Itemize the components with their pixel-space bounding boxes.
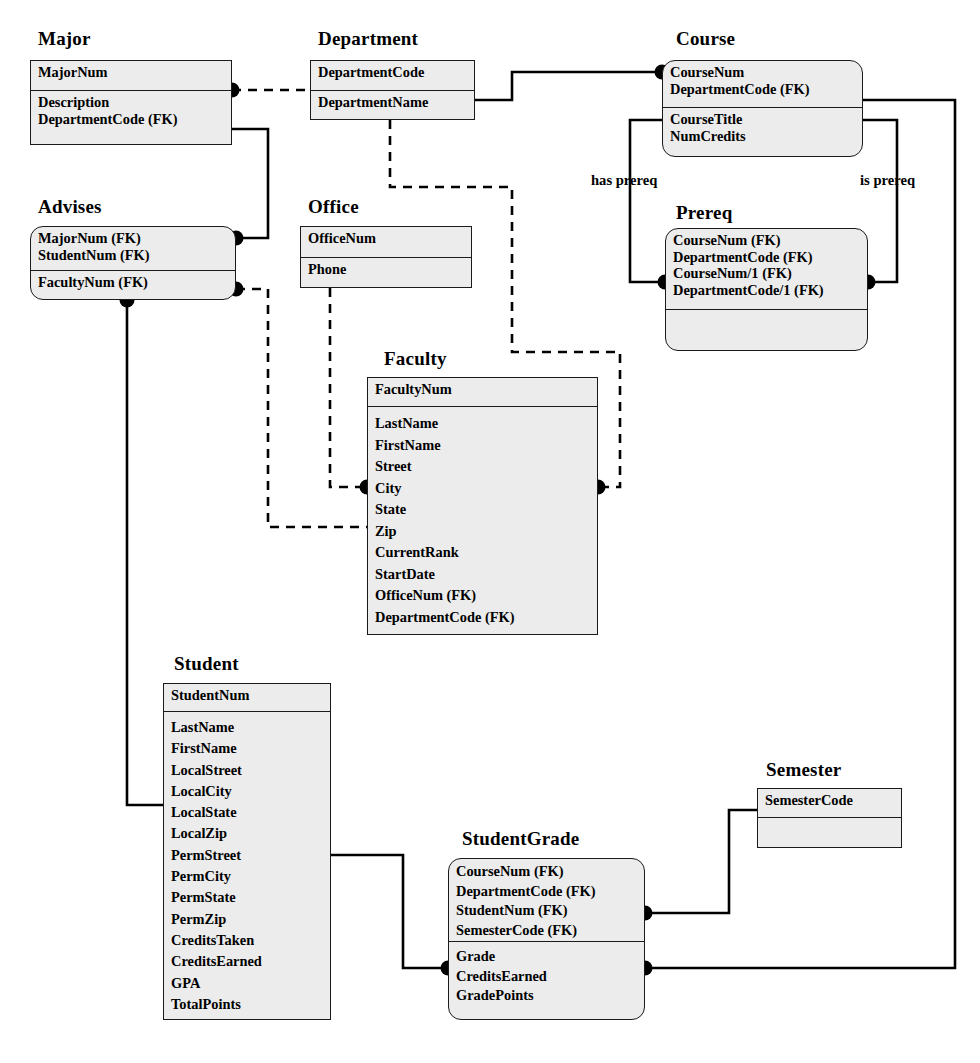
attribute: CourseNum (FK) (456, 862, 644, 882)
attribute: NumCredits (670, 128, 862, 145)
entity-title-semester: Semester (766, 759, 841, 781)
attribute: CurrentRank (375, 542, 597, 564)
attribute: GradePoints (456, 986, 644, 1006)
entity-title-student: Student (174, 653, 239, 675)
attribute: CourseTitle (670, 111, 862, 128)
line-advises-faculty (236, 289, 367, 527)
entity-faculty-keys: FacultyNum (368, 378, 597, 407)
entity-semester-keys: SemesterCode (758, 789, 901, 818)
entity-department-keys: DepartmentCode (311, 61, 474, 91)
entity-semester[interactable]: SemesterCode (757, 788, 902, 848)
line-major-advises (232, 129, 268, 238)
entity-major-keys: MajorNum (31, 61, 231, 91)
line-department-course (475, 72, 662, 100)
attribute: GPA (171, 973, 330, 994)
attribute: StudentNum (171, 687, 330, 704)
entity-faculty[interactable]: FacultyNum LastName FirstName Street Cit… (367, 377, 598, 635)
entity-prereq-attrs (666, 310, 867, 316)
entity-office-attrs: Phone (301, 258, 471, 281)
attribute: StartDate (375, 564, 597, 586)
entity-title-office: Office (308, 196, 359, 218)
attribute: Zip (375, 521, 597, 543)
attribute: DepartmentCode (318, 64, 474, 81)
entity-title-studentgrade: StudentGrade (462, 828, 579, 850)
line-advises-student (127, 300, 163, 805)
attribute: Description (38, 94, 231, 111)
entity-department-attrs: DepartmentName (311, 91, 474, 114)
attribute: State (375, 499, 597, 521)
er-diagram-canvas: Major MajorNum Description DepartmentCod… (0, 0, 980, 1063)
entity-student-keys: StudentNum (164, 684, 330, 712)
attribute: Street (375, 456, 597, 478)
attribute: CreditsEarned (456, 967, 644, 987)
attribute: FirstName (375, 435, 597, 457)
attribute: LastName (375, 413, 597, 435)
attribute: PermStreet (171, 845, 330, 866)
attribute: CourseNum (FK) (673, 232, 867, 249)
attribute: DepartmentCode (FK) (375, 607, 597, 629)
entity-course-attrs: CourseTitle NumCredits (663, 108, 862, 147)
attribute: LocalCity (171, 781, 330, 802)
attribute: FacultyNum (FK) (38, 274, 235, 291)
attribute: DepartmentCode (FK) (670, 81, 862, 98)
attribute: LocalZip (171, 823, 330, 844)
attribute: DepartmentCode/1 (FK) (673, 282, 867, 299)
line-course-is-prereq (863, 120, 897, 282)
attribute: MajorNum (FK) (38, 230, 235, 247)
attribute: DepartmentName (318, 94, 474, 111)
attribute: Grade (456, 947, 644, 967)
entity-major-attrs: Description DepartmentCode (FK) (31, 91, 231, 130)
attribute: PermZip (171, 909, 330, 930)
entity-department[interactable]: DepartmentCode DepartmentName (310, 60, 475, 120)
entity-prereq[interactable]: CourseNum (FK) DepartmentCode (FK) Cours… (665, 228, 868, 351)
attribute: DepartmentCode (FK) (673, 249, 867, 266)
relationship-label-has-prereq: has prereq (591, 172, 657, 189)
attribute: DepartmentCode (FK) (38, 111, 231, 128)
attribute: PermState (171, 887, 330, 908)
entity-course[interactable]: CourseNum DepartmentCode (FK) CourseTitl… (662, 60, 863, 157)
entity-course-keys: CourseNum DepartmentCode (FK) (663, 61, 862, 108)
entity-studentgrade-keys: CourseNum (FK) DepartmentCode (FK) Stude… (449, 859, 644, 942)
attribute: LocalState (171, 802, 330, 823)
attribute: MajorNum (38, 64, 231, 81)
attribute: OfficeNum (FK) (375, 585, 597, 607)
entity-advises-attrs: FacultyNum (FK) (31, 271, 235, 294)
relationship-label-is-prereq: is prereq (860, 172, 915, 189)
entity-student-attrs: LastName FirstName LocalStreet LocalCity… (164, 712, 330, 1018)
entity-semester-attrs (758, 818, 901, 824)
attribute: LastName (171, 717, 330, 738)
attribute: CourseNum (670, 64, 862, 81)
entity-major[interactable]: MajorNum Description DepartmentCode (FK) (30, 60, 232, 145)
attribute: SemesterCode (765, 792, 901, 809)
entity-faculty-attrs: LastName FirstName Street City State Zip… (368, 407, 597, 631)
attribute: SemesterCode (FK) (456, 921, 644, 941)
entity-office-keys: OfficeNum (301, 227, 471, 258)
entity-title-prereq: Prereq (676, 202, 732, 224)
entity-studentgrade[interactable]: CourseNum (FK) DepartmentCode (FK) Stude… (448, 858, 645, 1020)
attribute: CourseNum/1 (FK) (673, 265, 867, 282)
entity-title-course: Course (676, 28, 735, 50)
entity-title-major: Major (38, 28, 91, 50)
attribute: City (375, 478, 597, 500)
attribute: PermCity (171, 866, 330, 887)
line-student-studentgrade (331, 855, 448, 968)
entity-office[interactable]: OfficeNum Phone (300, 226, 472, 288)
entity-title-advises: Advises (38, 196, 102, 218)
line-office-faculty (330, 288, 367, 487)
entity-title-department: Department (318, 28, 418, 50)
entity-title-faculty: Faculty (384, 348, 447, 370)
line-course-has-prereq (630, 120, 665, 282)
attribute: FacultyNum (375, 381, 597, 398)
attribute: OfficeNum (308, 230, 471, 247)
attribute: StudentNum (FK) (38, 247, 235, 264)
entity-advises-keys: MajorNum (FK) StudentNum (FK) (31, 227, 235, 271)
entity-student[interactable]: StudentNum LastName FirstName LocalStree… (163, 683, 331, 1020)
entity-advises[interactable]: MajorNum (FK) StudentNum (FK) FacultyNum… (30, 226, 236, 300)
attribute: DepartmentCode (FK) (456, 882, 644, 902)
entity-prereq-keys: CourseNum (FK) DepartmentCode (FK) Cours… (666, 229, 867, 310)
attribute: LocalStreet (171, 760, 330, 781)
attribute: FirstName (171, 738, 330, 759)
attribute: StudentNum (FK) (456, 901, 644, 921)
line-studentgrade-semester (645, 810, 757, 913)
attribute: CreditsTaken (171, 930, 330, 951)
